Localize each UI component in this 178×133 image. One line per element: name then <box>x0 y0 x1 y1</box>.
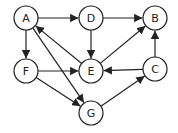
edge-f-g <box>36 78 80 107</box>
node-label: G <box>87 107 96 120</box>
node-c: C <box>143 57 167 81</box>
nodes-layer: ADBFECG <box>14 6 167 125</box>
node-g: G <box>79 101 103 125</box>
node-label: F <box>23 65 29 78</box>
node-label: D <box>87 12 95 25</box>
node-label: C <box>151 63 159 76</box>
edge-c-e <box>103 69 143 70</box>
node-d: D <box>79 6 103 30</box>
node-f: F <box>14 59 38 83</box>
edge-e-a <box>36 26 82 64</box>
node-e: E <box>79 59 103 83</box>
node-label: A <box>22 12 30 25</box>
node-label: B <box>151 12 159 25</box>
node-label: E <box>88 65 95 78</box>
edge-e-b <box>100 26 145 63</box>
edge-g-c <box>101 76 145 106</box>
node-a: A <box>14 6 38 30</box>
directed-graph: ADBFECG <box>0 0 178 133</box>
node-b: B <box>143 6 167 30</box>
